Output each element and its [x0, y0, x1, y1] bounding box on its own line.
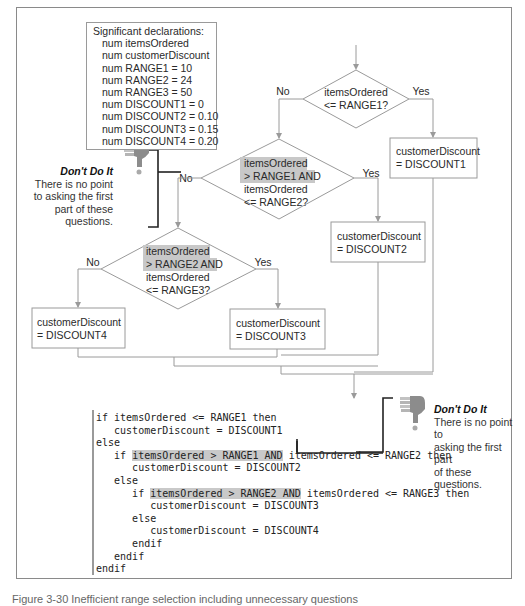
code-line: else — [96, 475, 516, 488]
arrowhead-icon — [353, 64, 359, 70]
decision-3-line2: > RANGE2 AND — [146, 258, 223, 270]
decision-2-line3: itemsOrdered — [244, 183, 308, 195]
merge-connector-2 — [174, 357, 378, 366]
code-line: customerDiscount = DISCOUNT3 — [96, 500, 516, 513]
decision-3-yes-connector — [256, 269, 278, 308]
note-body-line: There is no point — [30, 178, 113, 191]
decision-3-no-connector — [78, 269, 101, 307]
decision-1-line2: <= RANGE1? — [324, 99, 388, 111]
process-2-line2: = DISCOUNT2 — [337, 243, 407, 255]
declaration-item: num DISCOUNT3 = 0.15 — [93, 123, 216, 135]
declaration-item: num RANGE3 = 50 — [93, 86, 216, 98]
pseudocode-block: if itemsOrdered <= RANGE1 then customerD… — [96, 412, 516, 576]
process-4-box — [32, 308, 125, 348]
process-2-line1: customerDiscount — [337, 230, 421, 242]
note-body-line: to asking the first — [30, 190, 113, 203]
note-1-bracket — [148, 150, 158, 227]
declaration-item: num DISCOUNT1 = 0 — [93, 98, 216, 110]
decision-1-yes-connector — [409, 99, 433, 137]
process-3-line2: = DISCOUNT3 — [236, 330, 306, 342]
decision-2-line4: <= RANGE2? — [244, 196, 308, 208]
arrowhead-icon — [351, 393, 357, 399]
decision-2-line1: itemsOrdered — [244, 157, 308, 169]
decision-2-line2: > RANGE1 AND — [244, 170, 321, 182]
note-body-line: questions. — [30, 215, 113, 228]
declaration-item: num DISCOUNT2 = 0.10 — [93, 110, 216, 122]
process-3-box — [230, 309, 325, 349]
declarations-box: Significant declarations: num itemsOrder… — [86, 22, 217, 150]
code-line: else — [96, 513, 516, 526]
process-1-exit-connector — [354, 178, 433, 372]
note-title: Don't Do It — [30, 165, 113, 178]
figure-caption: Figure 3-30 Inefficient range selection … — [12, 593, 358, 605]
code-margin-bar — [92, 410, 94, 575]
merge-connector-1 — [281, 366, 433, 374]
decision-3-line3: itemsOrdered — [146, 271, 210, 283]
code-highlight: itemsOrdered > RANGE1 AND — [132, 450, 283, 461]
decision-2-yes-connector — [354, 178, 378, 221]
code-line: endif — [96, 538, 516, 551]
process-2-box — [331, 222, 425, 262]
decision-2-no-connector — [178, 178, 201, 227]
decision-1-no-label: No — [276, 85, 290, 97]
code-line: customerDiscount = DISCOUNT1 — [96, 425, 516, 438]
code-line: customerDiscount = DISCOUNT2 — [96, 462, 516, 475]
decision-2-yes-label: Yes — [362, 167, 379, 179]
decision-1-line1: itemsOrdered — [324, 86, 388, 98]
decision-3-line1: itemsOrdered — [146, 245, 210, 257]
code-line: if itemsOrdered > RANGE2 AND itemsOrdere… — [96, 488, 516, 501]
declaration-item: num itemsOrdered — [93, 37, 216, 49]
code-line: if itemsOrdered > RANGE1 AND itemsOrdere… — [96, 450, 516, 463]
code-line: customerDiscount = DISCOUNT4 — [96, 525, 516, 538]
process-3-line1: customerDiscount — [236, 317, 320, 329]
declarations-title: Significant declarations: — [93, 25, 216, 37]
declaration-item: num customerDiscount — [93, 49, 216, 61]
decision-3-no-label: No — [86, 256, 100, 268]
code-line: endif — [96, 551, 516, 564]
code-highlight: itemsOrdered > RANGE2 AND — [150, 488, 301, 499]
decision-3-line4: <= RANGE3? — [146, 284, 210, 296]
declaration-item: num RANGE2 = 24 — [93, 74, 216, 86]
declaration-item: num RANGE1 = 10 — [93, 62, 216, 74]
code-line: else — [96, 437, 516, 450]
code-line: if itemsOrdered <= RANGE1 then — [96, 412, 516, 425]
note-body-line: part of these — [30, 203, 113, 216]
process-4-line1: customerDiscount — [37, 316, 121, 328]
process-4-line2: = DISCOUNT4 — [37, 329, 107, 341]
decision-1-yes-label: Yes — [412, 85, 429, 97]
decision-3-yes-label: Yes — [254, 256, 271, 268]
process-1-line1: customerDiscount — [396, 145, 480, 157]
process-1-line2: = DISCOUNT1 — [396, 158, 466, 170]
decision-1-no-connector — [279, 99, 303, 138]
code-line: endif — [96, 563, 516, 576]
dont-do-it-note-1: Don't Do It There is no point to asking … — [30, 165, 113, 228]
declaration-item: num DISCOUNT4 = 0.20 — [93, 135, 216, 147]
